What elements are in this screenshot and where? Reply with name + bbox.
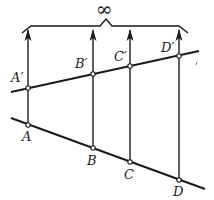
- projection-diagram: ∞ A′AB′BC′CD′D: [0, 0, 214, 200]
- label-b-prime: B′: [74, 56, 88, 71]
- point-d-prime: [177, 54, 181, 58]
- point-b-prime: [91, 72, 95, 76]
- lower-line: [11, 118, 205, 189]
- label-a-prime: A′: [10, 70, 23, 85]
- point-c: [128, 160, 132, 164]
- label-c: C: [124, 167, 134, 182]
- upper-line: [11, 51, 199, 92]
- point-a: [26, 123, 30, 127]
- projection-rays: [25, 29, 183, 180]
- point-c-prime: [128, 64, 132, 68]
- infinity-brace: [22, 19, 188, 33]
- stray-tick-mark: [196, 62, 197, 65]
- point-b: [91, 146, 95, 150]
- point-a-prime: [26, 86, 30, 90]
- label-d-prime: D′: [160, 40, 174, 55]
- label-c-prime: C′: [114, 49, 127, 64]
- label-b: B: [86, 153, 97, 168]
- point-d: [177, 178, 181, 182]
- points-group: A′AB′BC′CD′D: [10, 40, 184, 199]
- label-a: A: [21, 129, 31, 144]
- label-d: D: [172, 184, 184, 199]
- infinity-label: ∞: [96, 0, 113, 21]
